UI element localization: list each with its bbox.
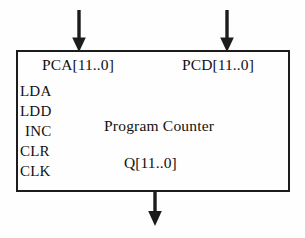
pcd-bus-label: PCD[11..0] bbox=[182, 57, 254, 73]
ldd-input-label: LDD bbox=[20, 104, 51, 119]
clk-input-label: CLK bbox=[20, 164, 51, 179]
lda-input-label: LDA bbox=[20, 84, 51, 99]
arrow-down-icon-q-output bbox=[146, 192, 164, 228]
q-bus-label: Q[11..0] bbox=[124, 155, 177, 171]
clr-input-label: CLR bbox=[20, 144, 50, 159]
inc-input-label: INC bbox=[25, 124, 51, 139]
block-diagram-canvas: PCA[11..0] PCD[11..0] LDA LDD INC CLR CL… bbox=[0, 0, 305, 238]
pca-bus-label: PCA[11..0] bbox=[42, 57, 114, 73]
block-title-label: Program Counter bbox=[104, 118, 214, 134]
arrow-down-icon-pcd-input bbox=[218, 10, 236, 54]
arrow-down-icon-pca-input bbox=[70, 10, 88, 54]
